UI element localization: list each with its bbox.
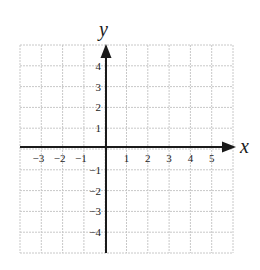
x-tick-label: 1: [124, 152, 130, 164]
y-axis-arrow-icon: [101, 44, 112, 58]
x-axis-label: x: [239, 135, 249, 157]
y-tick-label: 2: [96, 101, 102, 113]
x-tick-label: −1: [75, 152, 87, 164]
coordinate-plane: −3−2−1123454321−1−2−3−4 x y: [0, 0, 260, 270]
x-tick-label: 5: [209, 152, 215, 164]
y-axis-label: y: [97, 18, 108, 41]
x-tick-label: 4: [188, 152, 194, 164]
x-tick-label: −2: [54, 152, 66, 164]
y-tick-label: −3: [89, 205, 101, 217]
grid-lines: [20, 45, 233, 253]
x-axis-arrow-icon: [222, 142, 236, 153]
y-tick-label: 3: [96, 81, 102, 93]
y-tick-label: 1: [96, 122, 102, 134]
x-tick-label: 2: [145, 152, 151, 164]
x-tick-label: −3: [32, 152, 44, 164]
y-tick-label: −4: [89, 226, 101, 238]
y-tick-label: −2: [89, 185, 101, 197]
x-tick-label: 3: [166, 152, 172, 164]
y-tick-label: −1: [89, 164, 101, 176]
y-tick-label: 4: [96, 60, 102, 72]
